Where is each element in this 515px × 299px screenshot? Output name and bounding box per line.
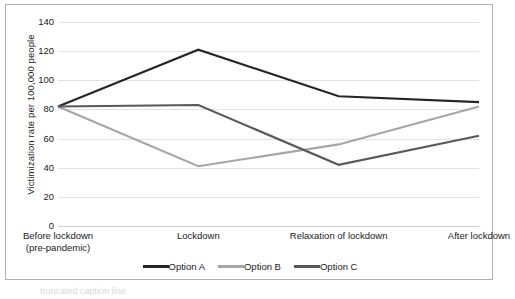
legend-line-swatch-icon: [294, 265, 320, 268]
x-axis-tick-label: Before lockdown(pre-pandemic): [0, 230, 118, 253]
figure-caption: truncated caption line: [40, 286, 126, 295]
gridline: [58, 226, 479, 227]
x-axis-tick-label-line: After lockdown: [448, 230, 510, 241]
legend-item[interactable]: Option B: [218, 262, 281, 272]
x-axis-tick-label-line: (pre-pandemic): [0, 242, 118, 254]
series-lines: [58, 22, 479, 226]
legend-label: Option B: [244, 262, 281, 272]
x-axis-tick-label: Lockdown: [138, 230, 258, 242]
chart-legend: Option AOption BOption C: [6, 262, 494, 272]
legend-label: Option C: [320, 262, 358, 272]
legend-item[interactable]: Option C: [294, 262, 358, 272]
legend-line-swatch-icon: [143, 265, 169, 268]
y-axis-tick-label: 20: [14, 192, 54, 202]
x-axis-tick-label: After lockdown: [419, 230, 515, 242]
x-axis-tick-label-line: Lockdown: [177, 230, 220, 241]
y-axis-tick-label: 60: [14, 134, 54, 144]
legend-label: Option A: [169, 262, 205, 272]
series-line: [58, 50, 479, 107]
y-axis-tick-label: 100: [14, 76, 54, 86]
legend-line-swatch-icon: [218, 265, 244, 268]
y-axis-tick-labels: 020406080100120140: [10, 22, 54, 226]
x-axis-tick-label-line: Relaxation of lockdown: [290, 230, 388, 241]
y-axis-tick-label: 140: [14, 17, 54, 27]
legend-item[interactable]: Option A: [143, 262, 205, 272]
chart-figure-frame: Victimization rate per 100,000 people 02…: [5, 4, 493, 280]
x-axis-tick-label: Relaxation of lockdown: [279, 230, 399, 242]
x-axis-tick-label-line: Before lockdown: [23, 230, 93, 241]
series-line: [58, 107, 479, 167]
y-axis-tick-label: 120: [14, 46, 54, 56]
y-axis-tick-label: 40: [14, 163, 54, 173]
y-axis-tick-label: 80: [14, 105, 54, 115]
line-chart: Victimization rate per 100,000 people 02…: [6, 5, 494, 281]
plot-area: [58, 22, 479, 226]
